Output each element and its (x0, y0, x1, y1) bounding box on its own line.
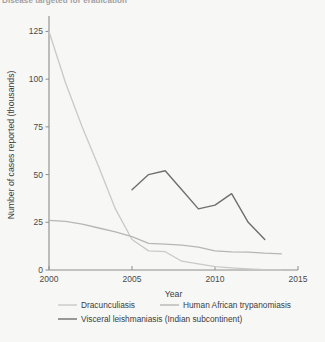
x-tick-label: 2000 (40, 274, 59, 284)
y-axis-title: Number of cases reported (thousands) (6, 71, 16, 220)
y-tick-label: 50 (34, 170, 44, 180)
x-axis: 2000200520102015 (40, 266, 308, 284)
x-tick-label: 2015 (289, 274, 308, 284)
x-axis-title: Year (165, 289, 183, 299)
legend-label: Human African trypanomiasis (183, 300, 291, 310)
cut-off-title: Disease targeted for eradication (2, 0, 322, 6)
x-tick-label: 2010 (206, 274, 225, 284)
series-line-human-african-trypanomiasis (49, 220, 281, 253)
y-tick-label: 25 (34, 217, 44, 227)
y-tick-label: 75 (34, 122, 44, 132)
chart-figure: Disease targeted for eradication 0255075… (0, 0, 325, 342)
y-tick-label: 100 (29, 74, 43, 84)
line-chart-svg: 0255075100125 2000200520102015 YearNumbe… (0, 0, 325, 342)
chart-legend: DracunculiasisHuman African trypanomiasi… (58, 300, 291, 324)
legend-label: Visceral leishmaniasis (Indian subcontin… (81, 314, 242, 324)
series-line-visceral-leishmaniasis-indian-subcontinent (132, 171, 265, 240)
x-tick-label: 2005 (123, 274, 142, 284)
series-line-dracunculiasis (49, 32, 281, 270)
y-axis: 0255075100125 (29, 16, 49, 275)
series-lines (49, 32, 281, 270)
legend-label: Dracunculiasis (81, 300, 135, 310)
axis-titles: YearNumber of cases reported (thousands) (6, 71, 182, 299)
y-tick-label: 125 (29, 26, 43, 36)
